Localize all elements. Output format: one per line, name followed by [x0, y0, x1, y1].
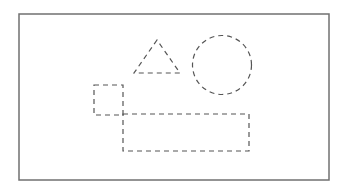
diagram-canvas — [0, 0, 348, 185]
frame-border — [19, 14, 329, 180]
